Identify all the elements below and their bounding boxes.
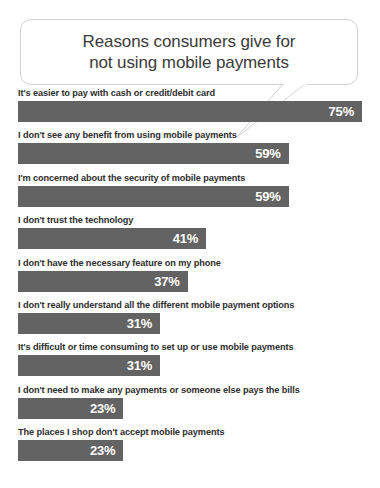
chart-row: I don't really understand all the differ…: [0, 300, 380, 342]
bar: 75%: [18, 101, 362, 122]
chart-row: I'm concerned about the security of mobi…: [0, 173, 380, 215]
title-line-1: Reasons consumers give for: [83, 32, 296, 51]
chart-row: I don't see any benefit from using mobil…: [0, 130, 380, 172]
bar: 31%: [18, 355, 160, 376]
bar: 59%: [18, 143, 289, 164]
bar-category-label: I don't see any benefit from using mobil…: [18, 130, 237, 140]
chart-row: The places I shop don't accept mobile pa…: [0, 427, 380, 469]
bar: 59%: [18, 186, 289, 207]
chart-row: I don't have the necessary feature on my…: [0, 258, 380, 300]
bar-category-label: I don't need to make any payments or som…: [18, 385, 300, 395]
chart-row: It's easier to pay with cash or credit/d…: [0, 88, 380, 130]
bar-value-label: 41%: [173, 232, 198, 245]
chart-row: I don't trust the technology41%: [0, 215, 380, 257]
bar-chart: It's easier to pay with cash or credit/d…: [0, 88, 380, 470]
bar-category-label: I don't trust the technology: [18, 215, 133, 225]
chart-row: It's difficult or time consuming to set …: [0, 342, 380, 384]
bar: 41%: [18, 228, 206, 249]
bar-category-label: The places I shop don't accept mobile pa…: [18, 427, 224, 437]
bar-value-label: 23%: [90, 444, 115, 457]
bar-value-label: 75%: [329, 105, 354, 118]
bar-category-label: It's easier to pay with cash or credit/d…: [18, 88, 215, 98]
bar-value-label: 23%: [90, 402, 115, 415]
bar-value-label: 59%: [255, 147, 280, 160]
bar: 23%: [18, 398, 123, 419]
page-title: Reasons consumers give for not using mob…: [73, 31, 306, 73]
bar-category-label: I'm concerned about the security of mobi…: [18, 173, 245, 183]
title-bubble-box: Reasons consumers give for not using mob…: [20, 19, 358, 85]
title-line-2: not using mobile payments: [83, 52, 296, 73]
bar: 23%: [18, 440, 123, 461]
bar-value-label: 31%: [127, 359, 152, 372]
bar-value-label: 59%: [255, 190, 280, 203]
bar-category-label: It's difficult or time consuming to set …: [18, 342, 293, 352]
bar: 37%: [18, 271, 188, 292]
bar-value-label: 31%: [127, 317, 152, 330]
chart-row: I don't need to make any payments or som…: [0, 385, 380, 427]
bar-value-label: 37%: [154, 275, 179, 288]
bar-category-label: I don't really understand all the differ…: [18, 300, 294, 310]
title-speech-bubble: Reasons consumers give for not using mob…: [20, 19, 358, 85]
bar: 31%: [18, 313, 160, 334]
bar-category-label: I don't have the necessary feature on my…: [18, 258, 221, 268]
